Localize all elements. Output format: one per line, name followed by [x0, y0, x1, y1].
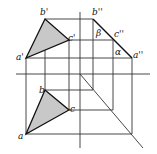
label-b-double-prime: b'' [92, 7, 103, 17]
diagonal-45-line [80, 74, 143, 148]
side-view-edge [93, 19, 132, 58]
label-alpha: α [115, 47, 121, 57]
label-c: c [70, 104, 75, 114]
top-view-triangle [26, 90, 69, 134]
projection-diagram: b' c' a' b'' c'' a'' β α b c a [0, 0, 157, 154]
label-a: a [18, 131, 23, 141]
label-a-prime: a' [16, 52, 24, 62]
front-view-triangle [26, 19, 69, 58]
label-c-double-prime: c'' [114, 29, 124, 39]
label-beta: β [95, 28, 101, 38]
label-a-double-prime: a'' [133, 50, 143, 60]
label-b: b [39, 85, 45, 95]
label-c-prime: c' [68, 33, 76, 43]
label-b-prime: b' [40, 7, 48, 17]
